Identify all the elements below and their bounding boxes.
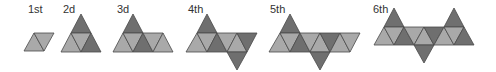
figure-4th: 4th [186, 3, 257, 70]
triangle-dark [414, 45, 434, 63]
figure-label: 5th [270, 3, 285, 15]
figures-group: 1st2d3d4th5th6th [24, 3, 474, 70]
figure-label: 3d [117, 3, 129, 15]
figure-3d: 3d [113, 3, 173, 52]
figure-label: 6th [373, 3, 388, 15]
figure-1st: 1st [24, 3, 54, 51]
triangle-dark [197, 14, 217, 33]
figure-5th: 5th [269, 3, 360, 70]
figure-label: 4th [188, 3, 203, 15]
figure-label: 2d [63, 3, 75, 15]
triangle-dark [71, 14, 91, 33]
triangle-dark [444, 8, 464, 27]
triangle-dark [310, 52, 330, 70]
figure-2d: 2d [61, 3, 101, 52]
figure-label: 1st [28, 3, 43, 15]
polyiamond-diagram: 1st2d3d4th5th6th [0, 0, 496, 72]
triangle-dark [123, 14, 143, 33]
triangle-dark [280, 14, 300, 33]
figure-6th: 6th [373, 3, 474, 63]
triangle-dark [227, 52, 247, 70]
